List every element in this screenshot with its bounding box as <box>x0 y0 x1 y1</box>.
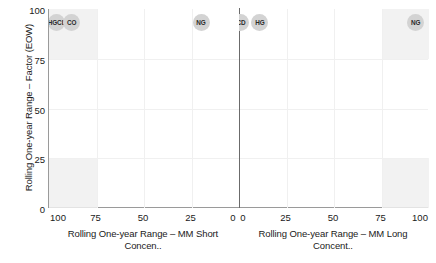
x-tick-left-50: 50 <box>138 212 149 223</box>
x-axis-title-right-line1: Rolling One-year Range – MM Long <box>238 228 428 240</box>
gridline-x-left-25 <box>192 9 193 208</box>
data-point-label: CO <box>67 19 76 26</box>
y-tick-0: 0 <box>19 205 45 215</box>
plot-area: HGCL CO NG CD HG NG <box>48 9 428 208</box>
x-tick-left-75: 75 <box>90 212 101 223</box>
shade-lower-left <box>49 158 97 208</box>
data-point-hg[interactable]: HG <box>251 14 268 31</box>
x-axis-title-left-line1: Rolling One-year Range – MM Short <box>48 228 238 240</box>
data-point-label: NG <box>196 19 205 26</box>
y-axis-tick-group: 100 75 50 25 0 <box>14 0 45 263</box>
gridline-x-left-50 <box>144 9 145 208</box>
gridline-x-right-25 <box>287 9 288 208</box>
panel-divider <box>239 8 240 208</box>
x-axis-title-left-line2: Concen.. <box>48 240 238 252</box>
x-tick-left-100: 100 <box>50 212 66 223</box>
scatter-chart-figure: Rolling One-year Range – Factor (EOW) 10… <box>0 0 436 263</box>
y-tick-50: 50 <box>19 106 45 116</box>
panel-mm-short-concentration: HGCL CO NG <box>49 9 239 208</box>
panel-mm-long-concentration: CD HG NG <box>239 9 429 208</box>
y-tick-25: 25 <box>19 155 45 165</box>
gridline-x-right-75 <box>382 9 383 208</box>
shade-lower-right <box>382 158 430 208</box>
x-tick-right-0: 0 <box>240 212 245 223</box>
y-tick-100: 100 <box>19 6 45 16</box>
x-axis-title-right-line2: Concent.. <box>238 240 428 252</box>
x-tick-right-50: 50 <box>328 212 339 223</box>
x-axis-title-right: Rolling One-year Range – MM Long Concent… <box>238 228 428 252</box>
x-tick-left-0: 0 <box>230 212 235 223</box>
data-point-label: CD <box>239 19 245 26</box>
x-tick-left-25: 25 <box>185 212 196 223</box>
data-point-label: NG <box>411 19 420 26</box>
data-point-label: HG <box>255 19 264 26</box>
data-point-ng-left[interactable]: NG <box>193 14 210 31</box>
x-axis-title-left: Rolling One-year Range – MM Short Concen… <box>48 228 238 252</box>
x-tick-right-25: 25 <box>280 212 291 223</box>
data-point-cd[interactable]: CD <box>239 14 249 31</box>
y-tick-75: 75 <box>19 56 45 66</box>
gridline-x-right-50 <box>334 9 335 208</box>
x-tick-right-75: 75 <box>375 212 386 223</box>
gridline-x-left-75 <box>97 9 98 208</box>
x-tick-right-100: 100 <box>412 212 428 223</box>
